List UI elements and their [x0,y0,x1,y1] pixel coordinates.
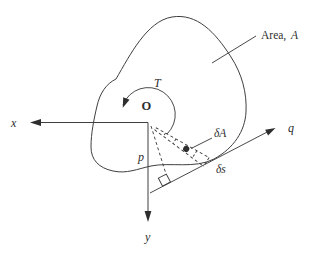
y-axis-label: y [144,230,151,244]
p-distance-label: p [137,150,144,164]
q-axis-label: q [288,121,294,135]
torque-label: T [154,76,162,90]
x-axis-arrowhead [30,119,41,126]
delta-area-dot [182,145,191,154]
strip-tick [163,133,165,137]
origin-label: O [142,99,152,113]
delta-area-leader-line [191,138,212,149]
torsion-area-diagram: Area, A T O x y q p [0,0,309,259]
area-label-symbol: A [290,29,299,41]
figure-canvas: Area, A T O x y q p [0,0,309,259]
q-axis-arrowhead [265,125,277,135]
right-angle-marker [158,174,170,186]
strip-tick [173,139,176,144]
x-axis-label: x [10,116,17,130]
area-outline [91,16,246,171]
y-axis-arrowhead [145,211,152,222]
strip-tick [192,151,197,158]
strip-edge-top [156,124,209,161]
elemental-strip [152,124,209,166]
area-label: Area, [261,29,286,42]
strip-edge-bottom [152,130,205,167]
delta-area-label: δA [214,127,227,139]
perpendicular-dashed-line [151,126,166,174]
torque-arrowhead [120,97,130,109]
delta-s-label: δs [216,163,226,175]
